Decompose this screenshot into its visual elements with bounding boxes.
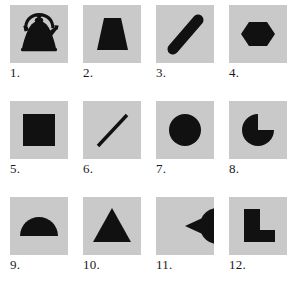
shape-caption-2: 2.: [83, 65, 93, 80]
shape-caption-12: 12.: [229, 257, 246, 272]
shape-caption-4: 4.: [229, 65, 239, 80]
figure-sheet: 1. 2. 3.: [0, 0, 302, 297]
pac-man-upper-right-notch-icon: [229, 101, 287, 159]
shape-cell-3: 3.: [156, 5, 229, 101]
kettle-silhouette-icon: [10, 5, 68, 63]
shape-cell-1: 1.: [10, 5, 83, 101]
shape-grid: 1. 2. 3.: [0, 0, 302, 297]
shape-caption-1: 1.: [10, 65, 20, 80]
shape-caption-3: 3.: [156, 65, 166, 80]
thin-diagonal-line-icon: [83, 101, 141, 159]
shape-panel-6: [83, 101, 141, 159]
thick-diagonal-bar-icon: [156, 5, 214, 63]
shape-caption-11: 11.: [156, 257, 172, 272]
shape-cell-9: 9.: [10, 197, 83, 293]
shape-panel-1: [10, 5, 68, 63]
triangle-icon: [83, 197, 141, 255]
semicircle-icon: [10, 197, 68, 255]
shape-caption-7: 7.: [156, 161, 166, 176]
shape-cell-6: 6.: [83, 101, 156, 197]
shape-panel-10: [83, 197, 141, 255]
shape-panel-3: [156, 5, 214, 63]
shape-caption-10: 10.: [83, 257, 100, 272]
pac-man-right-notch-icon: [156, 197, 214, 255]
shape-caption-8: 8.: [229, 161, 239, 176]
shape-cell-12: 12.: [229, 197, 302, 293]
shape-panel-9: [10, 197, 68, 255]
shape-panel-12: [229, 197, 287, 255]
shape-cell-11: 11.: [156, 197, 229, 293]
l-shape-icon: [229, 197, 287, 255]
trapezoid-icon: [83, 5, 141, 63]
shape-caption-9: 9.: [10, 257, 20, 272]
hexagon-icon: [229, 5, 287, 63]
shape-panel-8: [229, 101, 287, 159]
square-icon: [10, 101, 68, 159]
shape-cell-2: 2.: [83, 5, 156, 101]
shape-caption-6: 6.: [83, 161, 93, 176]
shape-panel-2: [83, 5, 141, 63]
circle-icon: [156, 101, 214, 159]
shape-cell-10: 10.: [83, 197, 156, 293]
shape-caption-5: 5.: [10, 161, 20, 176]
shape-cell-5: 5.: [10, 101, 83, 197]
shape-cell-7: 7.: [156, 101, 229, 197]
shape-cell-8: 8.: [229, 101, 302, 197]
shape-panel-7: [156, 101, 214, 159]
shape-panel-4: [229, 5, 287, 63]
shape-panel-11: [156, 197, 214, 255]
shape-cell-4: 4.: [229, 5, 302, 101]
shape-panel-5: [10, 101, 68, 159]
